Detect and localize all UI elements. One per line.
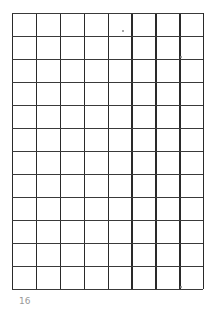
- grid-horizontal-line: [12, 243, 203, 244]
- grid-horizontal-line: [12, 105, 203, 106]
- grid-horizontal-line: [12, 36, 203, 37]
- grid-horizontal-line: [12, 59, 203, 60]
- speck: [180, 56, 182, 58]
- grid-horizontal-line: [12, 13, 203, 14]
- grid-horizontal-line: [12, 197, 203, 198]
- grid-horizontal-line: [12, 151, 203, 152]
- grid-horizontal-line: [12, 220, 203, 221]
- grid-horizontal-line: [12, 82, 203, 83]
- grid-horizontal-line: [12, 289, 203, 290]
- grid-paper: [12, 13, 203, 289]
- speck: [122, 30, 124, 32]
- page-number-label: 16: [19, 296, 30, 306]
- grid-horizontal-line: [12, 174, 203, 175]
- grid-horizontal-line: [12, 128, 203, 129]
- speck: [180, 286, 182, 288]
- grid-horizontal-line: [12, 266, 203, 267]
- grid-vertical-line: [203, 13, 204, 289]
